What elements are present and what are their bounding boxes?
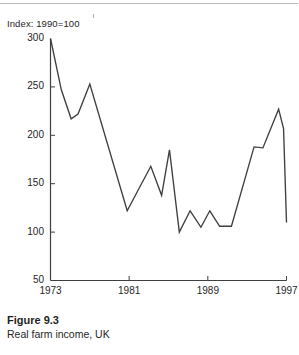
x-tick-label-1989: 1989 (188, 285, 228, 296)
data-series-line (51, 39, 287, 233)
y-tick-label-100: 100 (14, 226, 44, 237)
figure-title: Real farm income, UK (7, 327, 287, 341)
figure-caption-block: Figure 9.3 Real farm income, UK (7, 313, 287, 341)
y-tick-label-300: 300 (14, 32, 44, 43)
y-tick-label-250: 250 (14, 80, 44, 91)
x-tick-label-1973: 1973 (31, 285, 71, 296)
chart-svg (0, 0, 298, 300)
line-chart-plot: 300250200150100501973198119891997 (0, 0, 298, 300)
x-tick-label-1997: 1997 (267, 285, 299, 296)
x-tick-label-1981: 1981 (109, 285, 149, 296)
y-tick-label-50: 50 (14, 274, 44, 285)
y-tick-label-200: 200 (14, 129, 44, 140)
y-tick-label-150: 150 (14, 177, 44, 188)
figure-number: Figure 9.3 (7, 313, 287, 327)
figure-page: Index: 1990=100 300250200150100501973198… (0, 0, 298, 355)
